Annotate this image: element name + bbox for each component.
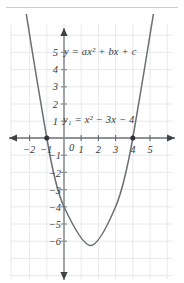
equation-specific-text: y₁ = x² − 3x − 4	[63, 114, 135, 125]
y-tick-label-4: 4	[53, 64, 59, 75]
header-divider	[6, 7, 178, 8]
equation-general-form: y = ax² + bx + c	[64, 46, 137, 57]
y-tick-label-1: 1	[53, 116, 58, 127]
x-tick-label-4: 4	[130, 144, 136, 155]
x-tick-label-3: 3	[112, 144, 118, 155]
x-tick-label-0: 0	[69, 142, 75, 153]
x-tick-label-1: 1	[79, 144, 84, 155]
y-tick-label-2: 2	[53, 99, 59, 110]
y-axis	[60, 28, 67, 280]
y-tick-label-3: 3	[52, 81, 58, 92]
y-tick-label--2: −2	[49, 168, 62, 179]
equation-specific-form: y₁ = x² − 3x − 4	[63, 114, 135, 125]
y-tick-label--5: −5	[49, 219, 61, 230]
x-tick-label--2: −2	[23, 144, 36, 155]
y-tick-label--4: −4	[49, 202, 62, 213]
y-tick-label-5: 5	[53, 47, 58, 58]
x-tick-label-2: 2	[96, 144, 102, 155]
x-tick-labels: −2 −1 0 1 2 3 4 5	[23, 142, 153, 155]
root-marker-right	[130, 136, 135, 141]
y-tick-label--6: −6	[49, 236, 62, 247]
equation-general-text: y = ax² + bx + c	[64, 46, 137, 57]
parabola-figure: −2 −1 0 1 2 3 4 5 5 4 3 2 1 −1 −2 −3 −4 …	[0, 14, 184, 283]
root-marker-left	[44, 136, 49, 141]
y-tick-label--1: −1	[49, 150, 61, 161]
x-tick-label-5: 5	[147, 144, 152, 155]
y-tick-label--3: −3	[49, 185, 61, 196]
